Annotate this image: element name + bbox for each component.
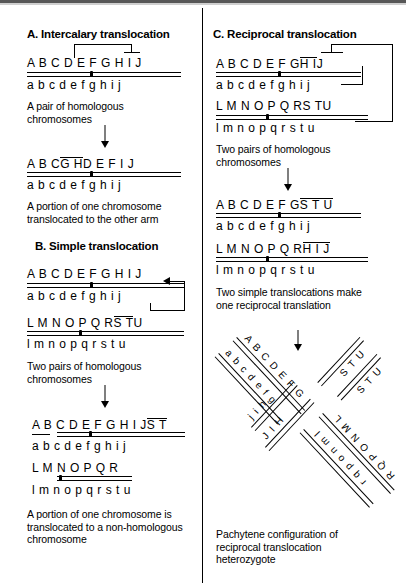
panel-b-chrom1-lower: a b c d e f g h i j	[27, 290, 192, 304]
panel-c-result2-axis	[216, 256, 376, 263]
panel-a-chrom2-lower: a b c d e f g h i j	[27, 179, 187, 193]
panel-c-chromosome-1: A B C D E F G H I J a b c d e f g h i j	[216, 57, 376, 93]
panel-a-chrom1-axis	[27, 71, 187, 78]
panel-c-result1-upper: A B C D E F G S T U	[216, 198, 376, 212]
scan-edge-light	[0, 3, 406, 5]
panel-a-title: A. Intercalary translocation	[27, 28, 170, 40]
panel-c-result2-pre: L M N O P Q R	[216, 243, 303, 256]
panel-c-bracket-hij-overline	[321, 52, 343, 53]
panel-a-chrom2-pre: A B C	[27, 158, 60, 171]
panel-c-chrom2-marked: S T	[303, 100, 323, 113]
panel-b-transfer-top	[168, 281, 185, 282]
panel-c-chrom1-lower: a b c d e f g h i j	[216, 79, 376, 93]
panel-a-chromosome-1: A B C D E F G H I J a b c d e f g h i j	[27, 57, 187, 93]
panel-b-chrom2-pre: L M N O P Q R	[27, 317, 114, 330]
panel-c-result2-marked: H I J	[303, 242, 330, 256]
panel-c-arrow-1	[281, 168, 295, 192]
panel-c-chrom2-pre: L M N O P Q R	[216, 100, 303, 113]
panel-b-chrom2-lower: l m n o p q r s t u	[27, 338, 192, 352]
panel-b-transfer-bottom	[150, 310, 185, 311]
panel-a-chrom2-axis	[27, 171, 187, 178]
panel-b-transfer-right	[184, 281, 185, 311]
panel-a-bracket-top	[74, 44, 132, 45]
panel-a-caption-1: A pair of homologous chromosomes	[27, 100, 177, 125]
panel-c-chrom2-axis	[216, 114, 376, 121]
panel-c-chrom2-post: U	[322, 100, 331, 113]
panel-c-result2-lower: l m n o p q r s t u	[216, 264, 376, 278]
panel-c-result1-marked: S T U	[300, 198, 333, 212]
pachytene-cross: A B C D E F G a b c d e f g S T U S T U	[203, 325, 406, 520]
panel-c-result-1: A B C D E F G S T U a b c d e f g h i j	[216, 198, 376, 234]
panel-b-caption-2: A portion of one chromosome is transloca…	[27, 508, 192, 546]
panel-c-chrom2-upper: L M N O P Q R S T U	[216, 100, 376, 114]
panel-b-chrom2-axis	[27, 330, 192, 337]
panel-b-chromosome-2: L M N O P Q R S T U l m n o p q r s t u	[27, 316, 192, 352]
panel-b-result-2: L M N O P Q R l m n o p q r s t u	[32, 462, 202, 498]
panel-c-chrom1-post: J	[317, 58, 324, 71]
panel-c-result-2: L M N O P Q R H I J l m n o p q r s t u	[216, 242, 376, 278]
panel-c-caption-1: Two pairs of homologous chromosomes	[216, 143, 366, 168]
panel-b-result2-lower: l m n o p q r s t u	[32, 484, 202, 498]
panel-b-result1-lower: a b c d e f g h i j	[32, 440, 202, 454]
panel-b-result1-axis	[32, 432, 202, 439]
panel-c-chrom1-axis	[216, 71, 376, 78]
panel-a-chromosome-2: A B C G H D E F I J a b c d e f g h i j	[27, 157, 187, 193]
panel-c-bracket-top	[331, 44, 393, 45]
panel-c-caption-3: Pachytene configuration of reciprocal tr…	[216, 528, 376, 566]
panel-c-caption-2: Two simple translocations make one recip…	[216, 286, 366, 311]
panel-b-result2-axis	[32, 476, 202, 483]
panel-b-chrom2-upper: L M N O P Q R S T U	[27, 316, 192, 330]
panel-b-arrow	[98, 385, 112, 409]
panel-b-title: B. Simple translocation	[35, 240, 158, 252]
panel-a-chrom2-upper: A B C G H D E F I J	[27, 157, 187, 171]
panel-c-chrom1-pre: A B C D E F G	[216, 58, 300, 71]
panel-c-chrom1-marked: H I	[300, 57, 317, 71]
panel-b-caption-1: Two pairs of homologous chromosomes	[27, 360, 182, 385]
panel-b-chromosome-1: A B C D E F G H I J a b c d e f g h i j	[27, 268, 192, 304]
panel-c-chromosome-2: L M N O P Q R S T U l m n o p q r s t u	[216, 100, 376, 136]
panel-a-chrom1-lower: a b c d e f g h i j	[27, 79, 187, 93]
panel-b-result1-upper: A B C D E F G H I J S T	[32, 418, 202, 432]
panel-a-arrow	[98, 125, 112, 149]
panel-c-result1-pre: A B C D E F G	[216, 199, 300, 212]
panel-c-title: C. Reciprocal translocation	[213, 28, 357, 40]
panel-a-chrom2-post: D E F I J	[83, 158, 134, 171]
panel-b-result2-upper: L M N O P Q R	[32, 462, 202, 476]
panel-c-chrom1-upper: A B C D E F G H I J	[216, 57, 376, 71]
panel-a-caption-2: A portion of one chromosome translocated…	[27, 200, 192, 225]
panel-c-chrom2-lower: l m n o p q r s t u	[216, 122, 376, 136]
panel-c-result1-axis	[216, 212, 376, 219]
panel-b-result1-marked: S T	[147, 418, 167, 432]
panel-b-result-1: A B C D E F G H I J S T a b c d e f g h …	[32, 418, 202, 454]
panel-b-chrom2-marked: S T	[114, 316, 134, 330]
panel-c-bracket-right-outer	[392, 44, 393, 122]
panel-a-chrom1-upper: A B C D E F G H I J	[27, 57, 187, 71]
panel-b-transfer-arrowhead	[163, 277, 170, 285]
figure-page: A. Intercalary translocation A B C D E F…	[0, 0, 406, 587]
panel-c-result1-lower: a b c d e f g h i j	[216, 220, 376, 234]
panel-c-result2-upper: L M N O P Q R H I J	[216, 242, 376, 256]
panel-b-transfer-left	[150, 303, 151, 311]
panel-a-bracket-tip	[124, 52, 140, 53]
panel-a-chrom2-marked: G H	[60, 157, 83, 171]
panel-b-chrom2-post: U	[133, 317, 142, 330]
